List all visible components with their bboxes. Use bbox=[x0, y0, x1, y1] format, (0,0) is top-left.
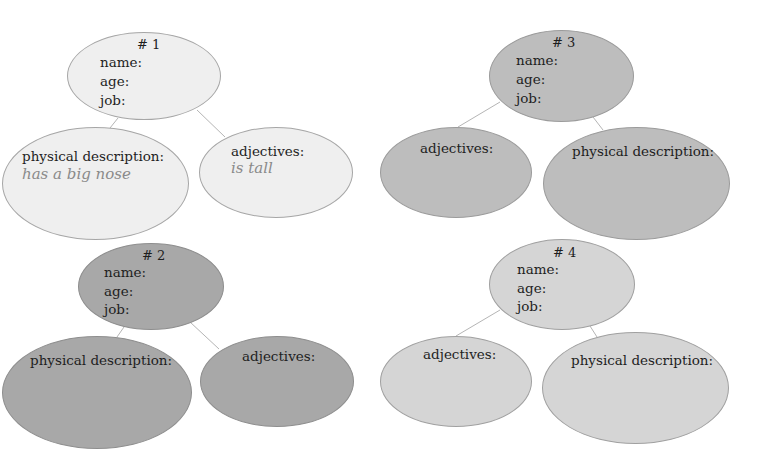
group-1-name-field[interactable]: name: bbox=[100, 53, 142, 72]
group-3-adjectives-label: adjectives: bbox=[420, 139, 493, 158]
group-4-job-field[interactable]: job: bbox=[517, 297, 543, 316]
group-2-job-field[interactable]: job: bbox=[104, 300, 130, 319]
group-4-age-field[interactable]: age: bbox=[517, 279, 546, 298]
connector-2-adjectives bbox=[190, 322, 219, 349]
group-3-physical-label: physical description: bbox=[572, 142, 714, 161]
group-3-number: # 3 bbox=[552, 33, 575, 52]
group-1-adjectives-example[interactable]: is tall bbox=[231, 159, 273, 178]
group-4-physical-ellipse bbox=[542, 332, 729, 444]
connector-1-physical bbox=[110, 118, 118, 128]
group-1-physical-example[interactable]: has a big nose bbox=[22, 165, 131, 184]
group-2-name-field[interactable]: name: bbox=[104, 263, 146, 282]
group-2-adjectives-label: adjectives: bbox=[242, 347, 315, 366]
connector-4-adjectives bbox=[456, 310, 500, 336]
connector-3-physical bbox=[593, 117, 603, 130]
group-3-age-field[interactable]: age: bbox=[516, 70, 545, 89]
connector-2-physical bbox=[117, 327, 124, 337]
group-1-job-field[interactable]: job: bbox=[100, 91, 126, 110]
group-3-name-field[interactable]: name: bbox=[516, 51, 558, 70]
group-1-age-field[interactable]: age: bbox=[100, 72, 129, 91]
group-3-job-field[interactable]: job: bbox=[516, 89, 542, 108]
group-4-name-field[interactable]: name: bbox=[517, 260, 559, 279]
connector-1-adjectives bbox=[197, 110, 225, 137]
group-1-number: # 1 bbox=[137, 35, 160, 54]
group-1-physical-label: physical description: bbox=[22, 147, 164, 166]
group-2-physical-label: physical description: bbox=[30, 351, 172, 370]
connector-3-adjectives bbox=[458, 102, 500, 127]
group-1-adjectives-ellipse bbox=[199, 127, 353, 218]
connector-4-physical bbox=[590, 326, 597, 337]
group-4-physical-label: physical description: bbox=[571, 351, 713, 370]
group-2-age-field[interactable]: age: bbox=[104, 282, 133, 301]
group-4-adjectives-label: adjectives: bbox=[423, 345, 496, 364]
